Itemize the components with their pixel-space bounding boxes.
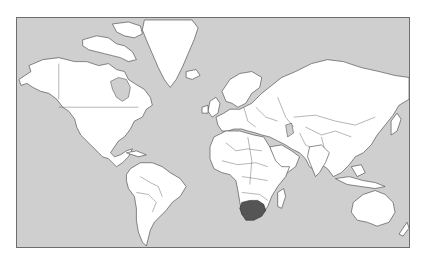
australia [351, 190, 395, 226]
north-america [19, 58, 152, 167]
ireland [202, 105, 208, 113]
india [308, 145, 330, 177]
indonesia [335, 177, 385, 189]
world-map [16, 17, 410, 248]
iceland [186, 70, 200, 80]
new-zealand [399, 222, 409, 236]
madagascar [278, 189, 286, 209]
south-america [126, 163, 186, 246]
arctic-islands [83, 36, 137, 62]
world-map-svg [17, 18, 409, 247]
uk [208, 97, 220, 117]
arctic-islands-2 [113, 22, 143, 38]
south-africa-highlighted [240, 200, 266, 220]
borneo [351, 165, 365, 177]
japan [391, 113, 401, 135]
